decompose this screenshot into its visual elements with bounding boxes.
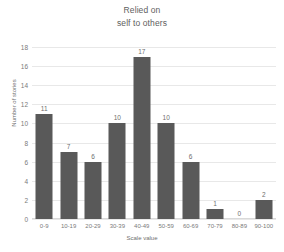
bar-group[interactable]: 1030-39 xyxy=(105,47,129,219)
bar-value-label: 0 xyxy=(238,210,242,217)
chart-subtitle: self to others xyxy=(0,17,284,29)
x-axis-tick-label: 0-9 xyxy=(40,223,49,229)
bar[interactable] xyxy=(255,200,272,219)
bar-value-label: 17 xyxy=(138,48,145,55)
chart-title: Relied on xyxy=(0,4,284,16)
bar[interactable] xyxy=(84,162,101,219)
x-axis-tick-label: 10-19 xyxy=(61,223,76,229)
bar-value-label: 2 xyxy=(262,191,266,198)
bar-group[interactable]: 620-29 xyxy=(81,47,105,219)
bar[interactable] xyxy=(133,57,150,219)
y-axis-tick-label: 16 xyxy=(21,63,28,70)
x-axis-tick-label: 30-39 xyxy=(110,223,125,229)
bar-value-label: 10 xyxy=(163,114,170,121)
y-axis-tick-label: 14 xyxy=(21,82,28,89)
plot-area: 024681012141618 110-9710-19620-291030-39… xyxy=(32,47,276,219)
bar-group[interactable]: 170-79 xyxy=(203,47,227,219)
bar-value-label: 6 xyxy=(91,153,95,160)
y-axis-tick-label: 0 xyxy=(24,216,28,223)
x-axis-title: Scale value xyxy=(0,235,284,241)
gridline: 0 xyxy=(32,219,276,220)
x-axis-tick-label: 40-49 xyxy=(134,223,149,229)
bar[interactable] xyxy=(182,162,199,219)
bar-value-label: 6 xyxy=(189,153,193,160)
y-axis-tick-label: 18 xyxy=(21,44,28,51)
y-axis-tick-label: 2 xyxy=(24,196,28,203)
y-axis-title: Number of stories xyxy=(11,53,17,153)
bar-group[interactable]: 1740-49 xyxy=(130,47,154,219)
x-axis-tick-label: 80-89 xyxy=(232,223,247,229)
bar-value-label: 11 xyxy=(41,105,48,112)
x-axis-tick-label: 70-79 xyxy=(207,223,222,229)
bar-value-label: 7 xyxy=(67,143,71,150)
bar-group[interactable]: 110-9 xyxy=(32,47,56,219)
y-axis-tick-label: 4 xyxy=(24,177,28,184)
bar-group[interactable]: 080-89 xyxy=(227,47,251,219)
bar-chart: Relied on self to others Number of stori… xyxy=(0,0,284,252)
bar[interactable] xyxy=(60,152,77,219)
bars-container: 110-9710-19620-291030-391740-491050-5966… xyxy=(32,47,276,219)
bar-group[interactable]: 1050-59 xyxy=(154,47,178,219)
x-axis-tick-label: 20-29 xyxy=(85,223,100,229)
x-axis-tick-label: 60-69 xyxy=(183,223,198,229)
bar[interactable] xyxy=(36,114,53,219)
bar-group[interactable]: 290-100 xyxy=(252,47,276,219)
bar-value-label: 1 xyxy=(213,200,217,207)
bar-value-label: 10 xyxy=(114,114,121,121)
y-axis-tick-label: 8 xyxy=(24,139,28,146)
bar[interactable] xyxy=(158,123,175,219)
bar-group[interactable]: 660-69 xyxy=(178,47,202,219)
bar[interactable] xyxy=(206,209,223,219)
x-axis-tick-label: 50-59 xyxy=(159,223,174,229)
y-axis-tick-label: 6 xyxy=(24,158,28,165)
bar-group[interactable]: 710-19 xyxy=(56,47,80,219)
y-axis-tick-label: 10 xyxy=(21,120,28,127)
bar[interactable] xyxy=(109,123,126,219)
x-axis-tick-label: 90-100 xyxy=(254,223,273,229)
y-axis-tick-label: 12 xyxy=(21,101,28,108)
